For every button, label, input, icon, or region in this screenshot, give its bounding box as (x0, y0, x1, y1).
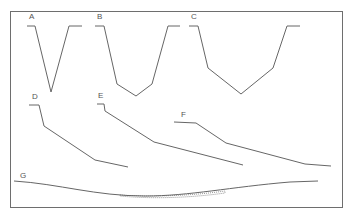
profile-a-label: A (29, 13, 34, 21)
profile-b-label: B (97, 13, 102, 21)
profile-g-line (14, 181, 318, 196)
profile-g-label: G (20, 172, 26, 180)
profile-c-label: C (191, 13, 197, 21)
profile-b-line (95, 26, 180, 96)
profile-f-label: F (181, 111, 186, 119)
profiles-svg (0, 0, 352, 215)
profile-c-line (189, 26, 300, 94)
profile-e-line (97, 104, 243, 165)
profile-d-line (29, 105, 128, 167)
profile-f-line (174, 122, 331, 166)
profile-e-label: E (98, 92, 103, 100)
profile-d-label: D (32, 93, 38, 101)
profile-a-line (27, 26, 82, 92)
